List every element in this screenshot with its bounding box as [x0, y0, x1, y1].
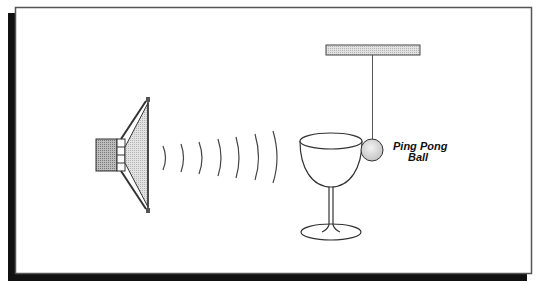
support-bar: [326, 45, 420, 55]
ball-label-line2: Ball: [408, 151, 429, 163]
frame: [8, 8, 532, 282]
frame-shadow-bottom: [8, 274, 527, 281]
diagram-canvas: Ping Pong Ball: [0, 0, 537, 284]
speaker-tab-top: [146, 97, 150, 102]
frame-border: [16, 8, 532, 274]
speaker-tab-bottom: [146, 208, 150, 213]
ping-pong-ball: [361, 139, 383, 161]
glass-rim: [300, 133, 362, 149]
speaker-magnet: [96, 139, 117, 171]
frame-shadow-left: [8, 13, 15, 281]
